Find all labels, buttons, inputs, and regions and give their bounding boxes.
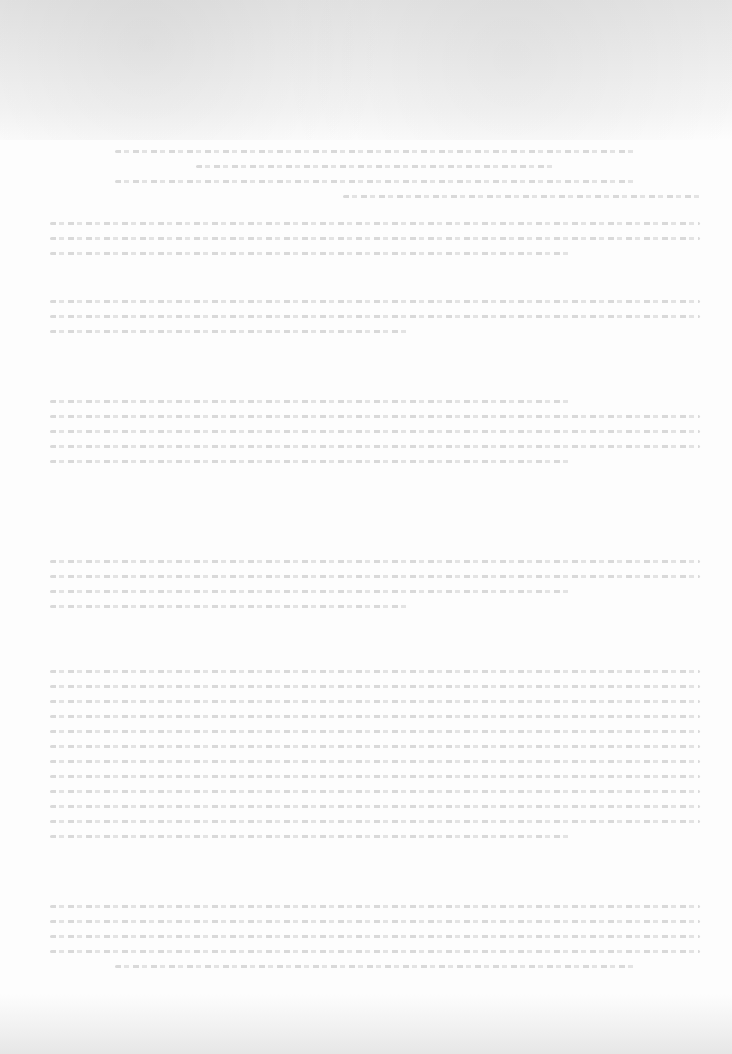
text-line: [115, 150, 635, 153]
text-line: [50, 605, 408, 608]
text-line: [50, 300, 700, 303]
paragraph: [50, 670, 700, 850]
text-line: [50, 445, 700, 448]
text-line: [115, 180, 635, 183]
text-line: [50, 560, 700, 563]
text-line: [50, 775, 700, 778]
text-line: [50, 222, 700, 225]
paragraph: [50, 905, 700, 980]
text-line: [50, 400, 570, 403]
text-line: [343, 195, 701, 198]
text-line: [50, 237, 700, 240]
paragraph: [50, 560, 700, 620]
paragraph: [50, 400, 700, 475]
text-line: [50, 685, 700, 688]
text-line: [50, 415, 700, 418]
text-line: [50, 330, 408, 333]
text-line: [50, 805, 700, 808]
text-line: [196, 165, 554, 168]
text-line: [50, 760, 700, 763]
text-line: [50, 730, 700, 733]
text-line: [50, 745, 700, 748]
scan-bottom-shadow: [0, 994, 732, 1054]
text-line: [50, 835, 570, 838]
text-line: [50, 790, 700, 793]
text-line: [115, 965, 635, 968]
text-line: [50, 715, 700, 718]
text-line: [50, 590, 570, 593]
text-line: [50, 950, 700, 953]
paragraph: [50, 300, 700, 345]
text-line: [50, 460, 570, 463]
text-line: [50, 905, 700, 908]
text-line: [50, 670, 700, 673]
text-line: [50, 575, 700, 578]
text-line: [50, 935, 700, 938]
text-line: [50, 920, 700, 923]
text-line: [50, 252, 570, 255]
text-line: [50, 315, 700, 318]
paragraph: [50, 222, 700, 267]
document-header: [50, 150, 700, 210]
text-line: [50, 430, 700, 433]
text-line: [50, 700, 700, 703]
scan-top-shadow: [0, 0, 732, 140]
text-line: [50, 820, 700, 823]
